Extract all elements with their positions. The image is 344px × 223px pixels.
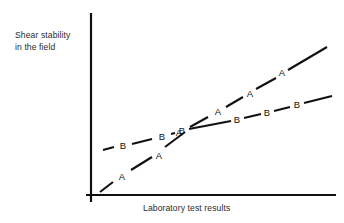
y-axis-label: Shear stabilityin the field	[15, 29, 70, 53]
series-a-point-label: A	[215, 106, 222, 117]
series-a-segment	[256, 78, 276, 89]
series-b-point-label: B	[159, 131, 165, 142]
series-b-point-label: B	[264, 107, 270, 118]
series-b-point-label: B	[120, 140, 126, 151]
series-a-point-labels: AAAAAA	[119, 67, 286, 182]
series-b-point-label: B	[294, 99, 300, 110]
series-b-point-label: B	[179, 125, 185, 136]
series-a-point-label: A	[156, 150, 163, 161]
series-b-segment	[171, 133, 175, 134]
series-b-segment	[304, 96, 332, 103]
series-a-point-label: A	[279, 67, 286, 78]
series-b-segment	[244, 114, 261, 118]
series-b-segment	[132, 139, 152, 144]
series-b-segment	[103, 147, 114, 150]
x-axis-label: Laboratory test results	[143, 202, 230, 214]
series-a-segment	[288, 47, 327, 70]
series-a-segment	[100, 182, 113, 192]
series-a-point-label: A	[247, 88, 254, 99]
series-a-segment	[226, 97, 243, 107]
y-axis-label-line2: in the field	[15, 42, 55, 52]
series-a-segment	[131, 157, 152, 170]
y-axis-label-line1: Shear stability	[15, 30, 70, 40]
series-b-point-label: B	[234, 114, 240, 125]
series-a-line	[100, 47, 327, 192]
series-b-segment	[274, 107, 290, 111]
series-a-point-label: A	[119, 171, 126, 182]
chart-figure: AAAAAA BBBBBB Shear stabilityin the fiel…	[0, 0, 344, 223]
